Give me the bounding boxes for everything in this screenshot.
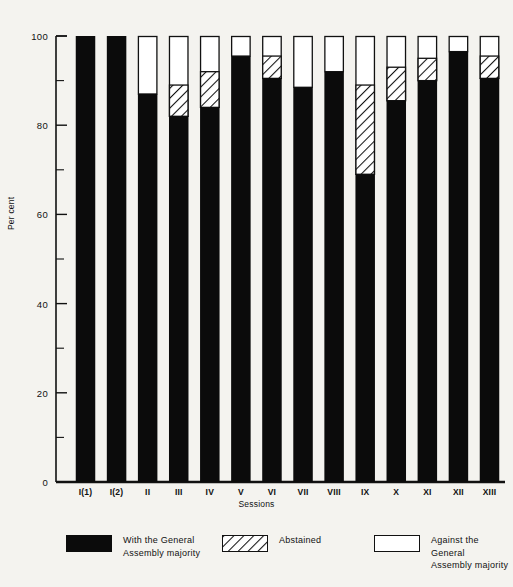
x-axis-tick-label: IX [361, 487, 369, 497]
x-axis-tick-label: XII [453, 487, 464, 497]
hatch-pattern-icon [223, 536, 267, 551]
legend-entry: With the General Assembly majority [66, 534, 200, 559]
x-axis-tick-label: III [175, 487, 183, 497]
x-axis-title: Sessions [0, 499, 513, 509]
chart-container: Per cent 020406080100 I(1)I(2)IIIIIIVVVI… [0, 0, 513, 587]
x-axis-tick-label: VII [298, 487, 309, 497]
plot-area: Per cent 020406080100 I(1)I(2)IIIIIIVVVI… [0, 0, 513, 512]
legend-label: Abstained [279, 534, 321, 547]
x-axis-tick-label: VI [268, 487, 276, 497]
legend-label: Against the General Assembly majority [431, 534, 513, 572]
legend-label: With the General Assembly majority [123, 534, 200, 559]
x-axis-tick-label: XI [423, 487, 431, 497]
legend-swatch-hatched [222, 535, 268, 552]
x-axis-tick-label: I(2) [110, 487, 124, 497]
legend-swatch-solid [66, 535, 112, 552]
x-axis-tick-label: VIII [327, 487, 341, 497]
x-axis-tick-label: V [238, 487, 244, 497]
legend-entry: Abstained [222, 534, 321, 552]
x-axis-tick-labels: I(1)I(2)IIIIIIVVVIVIIVIIIIXXXIXIIXIII [0, 0, 513, 512]
x-axis-tick-label: IV [206, 487, 214, 497]
legend-entry: Against the General Assembly majority [374, 534, 513, 572]
x-axis-tick-label: I(1) [79, 487, 93, 497]
x-axis-tick-label: X [393, 487, 399, 497]
legend-swatch-open [374, 535, 420, 552]
x-axis-tick-label: II [145, 487, 150, 497]
chart-legend: With the General Assembly majorityAbstai… [0, 524, 513, 587]
x-axis-tick-label: XIII [483, 487, 497, 497]
